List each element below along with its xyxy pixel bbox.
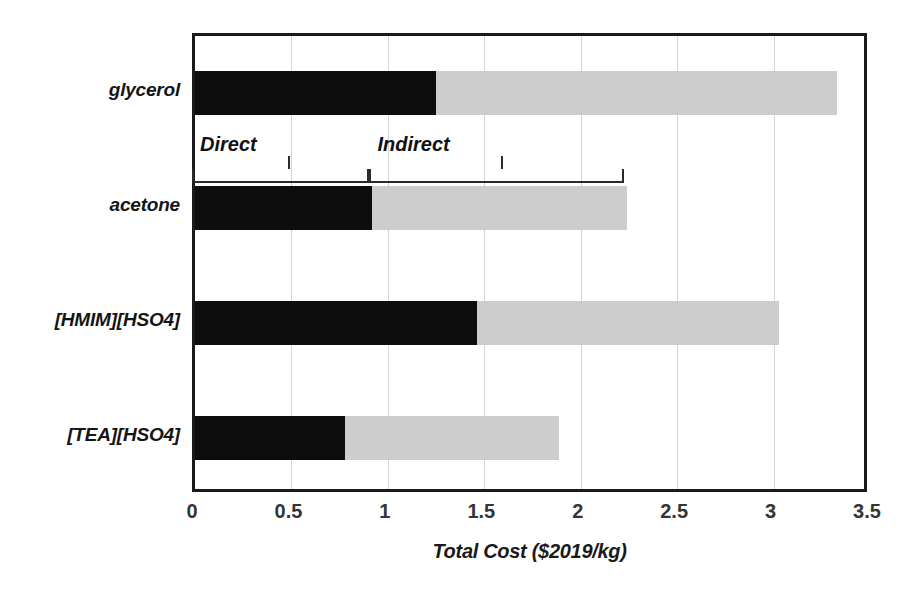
- y-axis-label-3: [TEA][HSO4]: [0, 424, 180, 446]
- stacked-bar-chart: glycerolacetone[HMIM][HSO4][TEA][HSO4] D…: [0, 0, 909, 598]
- y-axis-label-2: [HMIM][HSO4]: [0, 309, 180, 331]
- x-axis-tick-labels: 00.511.522.533.5: [192, 500, 867, 530]
- x-tick-label: 1.5: [467, 500, 495, 523]
- x-tick-label: 3.5: [853, 500, 881, 523]
- y-axis-label-1: acetone: [0, 194, 180, 216]
- x-tick-label: 2.5: [660, 500, 688, 523]
- y-axis-label-0: glycerol: [0, 79, 180, 101]
- x-tick-label: 2: [572, 500, 583, 523]
- x-tick-label: 0.5: [275, 500, 303, 523]
- x-tick-label: 3: [765, 500, 776, 523]
- y-axis-category-labels: glycerolacetone[HMIM][HSO4][TEA][HSO4]: [0, 33, 909, 492]
- x-tick-label: 0: [186, 500, 197, 523]
- x-tick-label: 1: [379, 500, 390, 523]
- x-axis-title: Total Cost ($2019/kg): [192, 540, 867, 563]
